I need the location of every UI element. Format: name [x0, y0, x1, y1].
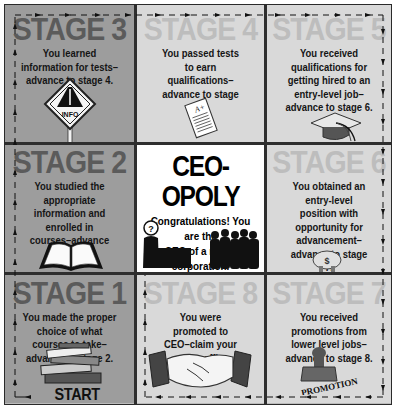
ceo-opoly-board: STAGE 3 You learned information for test…	[4, 4, 392, 405]
game-path-arrows-icon	[5, 5, 391, 404]
